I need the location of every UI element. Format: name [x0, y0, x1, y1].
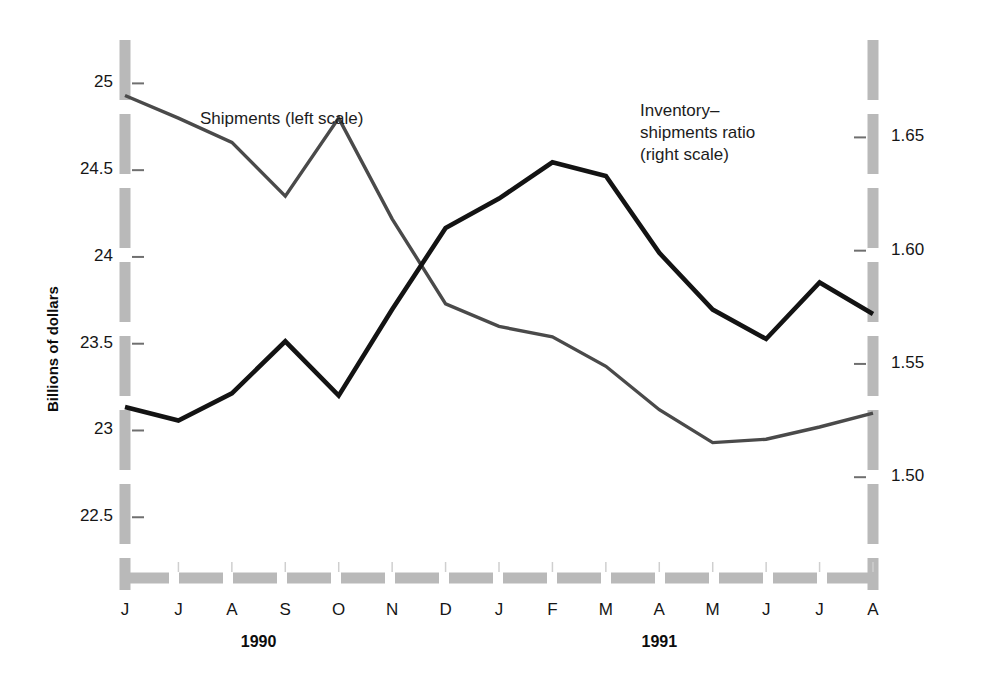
y-axis-tick-label-right: 1.65 — [891, 126, 924, 146]
x-axis-month-label: F — [532, 600, 572, 620]
x-axis-month-label: M — [693, 600, 733, 620]
y-axis-tick-label-right: 1.55 — [891, 353, 924, 373]
legend-ratio-line-2: shipments ratio — [640, 123, 755, 142]
x-axis-month-label: S — [265, 600, 305, 620]
legend-label-inventory-shipments-ratio: Inventory–shipments ratio(right scale) — [640, 100, 755, 166]
chart-figure: Billions of dollars Shipments (left scal… — [0, 0, 992, 693]
y-axis-tick-label-left: 22.5 — [33, 506, 113, 526]
x-axis-month-label: J — [800, 600, 840, 620]
x-axis-month-label: J — [746, 600, 786, 620]
y-axis-tick-label-left: 25 — [33, 72, 113, 92]
x-axis-month-label: A — [212, 600, 252, 620]
chart-canvas — [0, 0, 992, 693]
legend-ratio-line-3: (right scale) — [640, 145, 729, 164]
x-axis-month-label: M — [586, 600, 626, 620]
x-axis-month-label: A — [853, 600, 893, 620]
y-axis-tick-label-left: 24.5 — [33, 159, 113, 179]
x-axis-month-label: J — [105, 600, 145, 620]
x-axis-month-label: J — [158, 600, 198, 620]
y-axis-tick-label-left: 24 — [33, 246, 113, 266]
x-axis-year-label: 1990 — [219, 633, 299, 651]
x-axis-month-label: D — [426, 600, 466, 620]
y-axis-tick-label-right: 1.50 — [891, 466, 924, 486]
series-line-inventory-shipments-ratio — [125, 162, 873, 420]
legend-label-shipments: Shipments (left scale) — [200, 108, 363, 130]
x-axis-month-label: N — [372, 600, 412, 620]
x-axis-year-label: 1991 — [619, 633, 699, 651]
x-axis-month-label: J — [479, 600, 519, 620]
y-axis-tick-label-left: 23 — [33, 419, 113, 439]
y-axis-tick-label-left: 23.5 — [33, 333, 113, 353]
x-axis-month-label: O — [319, 600, 359, 620]
x-axis-month-label: A — [639, 600, 679, 620]
y-axis-tick-label-right: 1.60 — [891, 240, 924, 260]
legend-ratio-line-1: Inventory– — [640, 101, 719, 120]
